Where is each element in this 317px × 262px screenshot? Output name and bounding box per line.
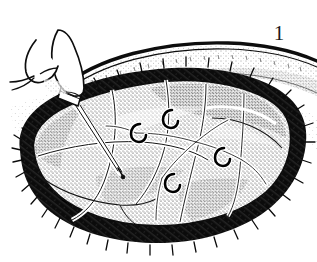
figure-plate: 1 [0, 0, 317, 262]
figure-number: 1 [268, 20, 290, 46]
